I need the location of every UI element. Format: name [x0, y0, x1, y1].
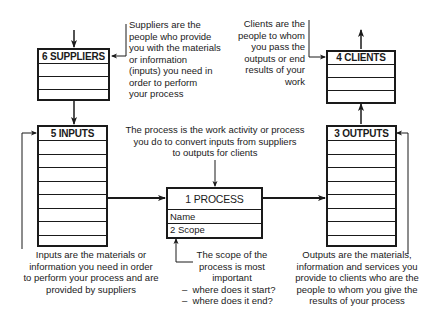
scope-note: The scope of the process is most importa… — [180, 249, 280, 307]
clients-note-pointer — [309, 20, 325, 57]
suppliers-note: Suppliers are the people who provide you… — [129, 19, 221, 100]
clients-title: 4 CLIENTS — [328, 52, 394, 65]
suppliers-note-pointer — [112, 24, 126, 56]
process-box: 1 PROCESS Name 2 Scope — [166, 187, 263, 239]
outputs-title: 3 OUTPUTS — [328, 127, 395, 141]
inputs-row — [39, 195, 106, 209]
suppliers-title: 6 SUPPLIERS — [39, 50, 108, 64]
clients-box: 4 CLIENTS — [326, 50, 396, 104]
outputs-feedback-line — [397, 133, 408, 254]
scope-bullet: – where does it start? — [182, 284, 280, 296]
outputs-row — [328, 141, 395, 155]
outputs-row — [328, 222, 395, 236]
inputs-row — [39, 222, 106, 236]
inputs-row — [39, 168, 106, 182]
outputs-note: Outputs are the materials, information a… — [287, 249, 427, 307]
process-note: The process is the work activity or proc… — [125, 124, 305, 159]
outputs-row — [328, 155, 395, 169]
process-name-row: Name — [168, 210, 261, 224]
suppliers-row — [39, 77, 108, 90]
outputs-row — [328, 182, 395, 196]
clients-row — [328, 78, 394, 91]
inputs-row — [39, 155, 106, 169]
inputs-feedback-line — [22, 133, 36, 249]
suppliers-box: 6 SUPPLIERS — [37, 48, 110, 101]
outputs-row — [328, 209, 395, 223]
inputs-row — [39, 236, 106, 246]
outputs-box: 3 OUTPUTS — [326, 125, 397, 247]
process-scope-row: 2 Scope — [168, 224, 261, 237]
process-title: 1 PROCESS — [168, 189, 261, 210]
clients-row — [328, 91, 394, 102]
suppliers-row — [39, 90, 108, 99]
inputs-note: Inputs are the materials or information … — [18, 249, 164, 295]
outputs-row — [328, 168, 395, 182]
inputs-row — [39, 141, 106, 155]
suppliers-row — [39, 64, 108, 77]
outputs-row — [328, 195, 395, 209]
clients-note: Clients are the people to whom you pass … — [226, 18, 305, 87]
inputs-row — [39, 182, 106, 196]
inputs-row — [39, 209, 106, 223]
inputs-box: 5 INPUTS — [37, 125, 108, 247]
scope-bullet: – where does it end? — [182, 295, 280, 307]
clients-row — [328, 65, 394, 78]
inputs-title: 5 INPUTS — [39, 127, 106, 141]
outputs-row — [328, 236, 395, 246]
